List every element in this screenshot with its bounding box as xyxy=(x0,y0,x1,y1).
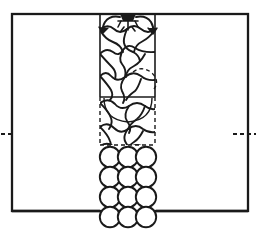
diagram-svg xyxy=(0,0,261,231)
particle xyxy=(136,167,156,187)
particle-array xyxy=(100,147,156,227)
particle xyxy=(136,147,156,167)
particle xyxy=(136,187,156,207)
particle xyxy=(136,207,156,227)
figure-canvas xyxy=(0,0,261,231)
